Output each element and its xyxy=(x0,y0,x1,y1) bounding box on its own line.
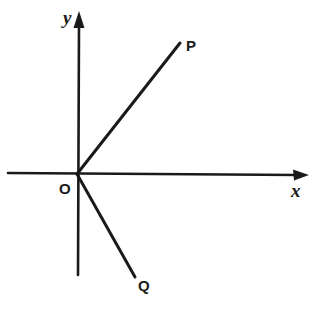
y-axis xyxy=(74,11,85,275)
x-axis-label: x xyxy=(290,180,301,201)
coordinate-diagram: y x O P Q xyxy=(0,0,310,313)
ray-oq xyxy=(77,174,135,277)
ray-op xyxy=(77,43,180,174)
x-axis xyxy=(8,170,309,181)
point-p-label: P xyxy=(186,37,196,54)
x-axis-line xyxy=(8,173,298,175)
y-axis-arrow-icon xyxy=(74,11,85,28)
x-axis-arrow-icon xyxy=(293,170,309,181)
point-q-label: Q xyxy=(138,277,150,294)
y-axis-label: y xyxy=(61,7,72,28)
y-axis-line xyxy=(78,24,79,275)
origin-label: O xyxy=(59,180,71,197)
